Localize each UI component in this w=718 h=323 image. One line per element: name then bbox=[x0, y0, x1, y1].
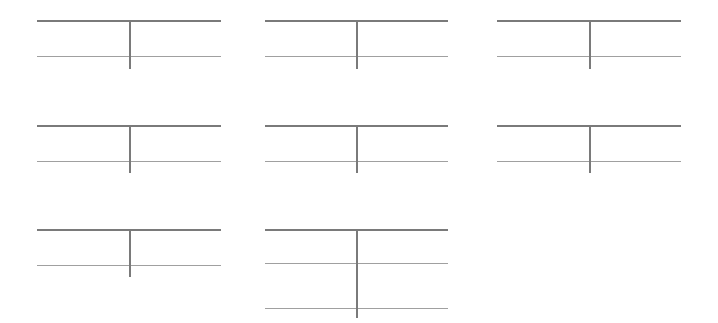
t-account-divider-line bbox=[589, 20, 591, 69]
t-account-4 bbox=[37, 125, 221, 173]
t-account-divider-line bbox=[129, 20, 131, 69]
t-account-credit-side bbox=[131, 127, 221, 161]
t-account-6 bbox=[497, 125, 681, 173]
t-account-credit-side bbox=[131, 231, 221, 265]
t-account-divider-line bbox=[356, 125, 358, 173]
t-account-debit-side bbox=[37, 22, 129, 56]
t-account-divider-line bbox=[356, 20, 358, 69]
t-account-8 bbox=[265, 229, 448, 318]
t-account-debit-side bbox=[37, 231, 129, 265]
t-account-divider-line bbox=[129, 125, 131, 173]
t-account-credit-side bbox=[591, 22, 681, 56]
t-account-debit-side bbox=[37, 127, 129, 161]
t-account-divider-line bbox=[129, 229, 131, 277]
t-account-divider-line bbox=[589, 125, 591, 173]
t-account-credit-side bbox=[591, 127, 681, 161]
t-account-1 bbox=[37, 20, 221, 69]
t-account-credit-side bbox=[131, 22, 221, 56]
t-account-divider-line bbox=[356, 229, 358, 318]
t-account-debit-side bbox=[497, 127, 589, 161]
t-account-2 bbox=[265, 20, 448, 69]
t-account-credit-side bbox=[358, 127, 448, 161]
t-account-3 bbox=[497, 20, 681, 69]
t-account-credit-side bbox=[358, 22, 448, 56]
t-account-5 bbox=[265, 125, 448, 173]
t-account-7 bbox=[37, 229, 221, 277]
t-account-debit-side bbox=[265, 22, 356, 56]
t-account-debit-side bbox=[265, 127, 356, 161]
t-account-debit-side bbox=[497, 22, 589, 56]
t-account-debit-side bbox=[265, 231, 356, 308]
t-account-credit-side bbox=[358, 231, 448, 308]
